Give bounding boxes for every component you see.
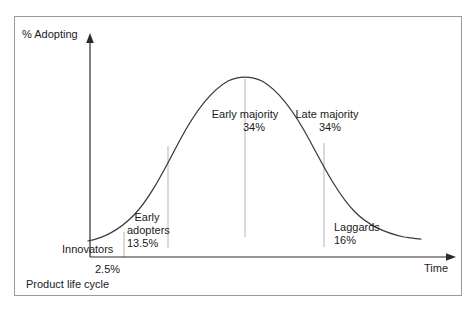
segment-percent-late-majority: 34% (285, 121, 369, 134)
segment-label-early-majority-name: Early majority (200, 108, 290, 121)
segment-label-late-majority: Late majority 34% (285, 108, 369, 134)
figure-root: % Adopting Time Innovators 2.5% Early ad… (0, 0, 474, 312)
segment-label-early-adopters-line2: adopters (127, 224, 167, 237)
figure-caption: Product life cycle (26, 278, 109, 291)
segment-percent-early-majority: 34% (200, 121, 290, 134)
segment-label-early-majority: Early majority 34% (200, 108, 290, 134)
segment-percent-innovators: 2.5% (95, 263, 120, 276)
segment-label-early-adopters-line1: Early (127, 211, 167, 224)
segment-percent-laggards: 16% (334, 234, 380, 247)
x-axis-label: Time (424, 262, 448, 275)
segment-percent-early-adopters: 13.5% (127, 237, 167, 250)
segment-label-laggards: Laggards 16% (334, 221, 380, 247)
segment-label-early-adopters: Early adopters 13.5% (127, 211, 167, 250)
segment-label-late-majority-name: Late majority (285, 108, 369, 121)
segment-label-innovators: Innovators (62, 243, 113, 256)
segment-label-laggards-name: Laggards (334, 221, 380, 234)
y-axis-label: % Adopting (22, 28, 78, 41)
